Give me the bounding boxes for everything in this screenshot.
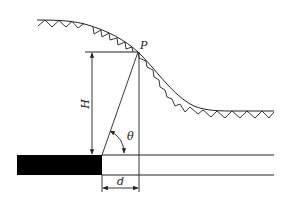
angle-theta-arc [110,131,124,153]
point-p-label: P [139,39,148,52]
ground-hatching [38,20,274,118]
ground-surface-curve [37,20,274,111]
tunnel-face-block [17,155,102,175]
angle-theta-label: θ [127,130,134,143]
height-label: H [79,99,92,110]
offset-label: d [117,175,124,188]
tunnel-ground-diagram: H P θ d [0,0,288,205]
